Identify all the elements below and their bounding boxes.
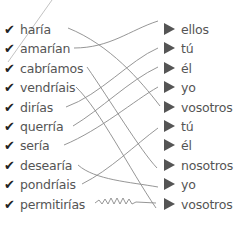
left-item-label: querría bbox=[20, 119, 63, 134]
triangle-right-icon bbox=[164, 198, 175, 210]
left-item[interactable]: ✔sería bbox=[4, 136, 49, 154]
triangle-right-icon bbox=[164, 42, 175, 54]
left-item-label: desearía bbox=[20, 158, 72, 173]
right-item-label: vosotros bbox=[181, 197, 233, 212]
left-item-label: dirías bbox=[20, 100, 53, 115]
check-icon: ✔ bbox=[4, 61, 20, 76]
check-icon: ✔ bbox=[4, 22, 20, 37]
triangle-right-icon bbox=[164, 62, 175, 74]
left-item-label: permitirías bbox=[20, 197, 85, 212]
right-item[interactable]: tú bbox=[164, 39, 193, 57]
triangle-right-icon bbox=[164, 120, 175, 132]
right-item[interactable]: vosotros bbox=[164, 98, 233, 116]
left-item-label: vendríais bbox=[20, 80, 75, 95]
right-item-label: vosotros bbox=[181, 100, 233, 115]
left-item[interactable]: ✔querría bbox=[4, 117, 63, 135]
left-item[interactable]: ✔haría bbox=[4, 20, 51, 38]
check-icon: ✔ bbox=[4, 80, 20, 95]
check-icon: ✔ bbox=[4, 138, 20, 153]
left-item[interactable]: ✔cabríamos bbox=[4, 59, 83, 77]
right-item[interactable]: él bbox=[164, 136, 192, 154]
right-item-label: él bbox=[181, 61, 192, 76]
left-item[interactable]: ✔vendríais bbox=[4, 78, 75, 96]
left-item-label: amarían bbox=[20, 41, 70, 56]
triangle-right-icon bbox=[164, 101, 175, 113]
right-item[interactable]: ellos bbox=[164, 20, 209, 38]
right-item-label: nosotros bbox=[181, 158, 233, 173]
triangle-right-icon bbox=[164, 81, 175, 93]
right-item[interactable]: yo bbox=[164, 78, 196, 96]
left-item[interactable]: ✔amarían bbox=[4, 39, 70, 57]
triangle-right-icon bbox=[164, 178, 175, 190]
right-item-label: tú bbox=[181, 119, 193, 134]
left-item-label: cabríamos bbox=[20, 61, 83, 76]
left-item[interactable]: ✔permitirías bbox=[4, 195, 85, 213]
right-item-label: yo bbox=[181, 177, 196, 192]
right-item[interactable]: vosotros bbox=[164, 195, 233, 213]
right-item[interactable]: él bbox=[164, 59, 192, 77]
left-item-label: pondríais bbox=[20, 177, 76, 192]
triangle-right-icon bbox=[164, 159, 175, 171]
right-item-label: yo bbox=[181, 80, 196, 95]
triangle-right-icon bbox=[164, 139, 175, 151]
check-icon: ✔ bbox=[4, 100, 20, 115]
right-item[interactable]: nosotros bbox=[164, 156, 233, 174]
left-item[interactable]: ✔pondríais bbox=[4, 175, 76, 193]
right-item-label: tú bbox=[181, 41, 193, 56]
right-item[interactable]: yo bbox=[164, 175, 196, 193]
check-icon: ✔ bbox=[4, 197, 20, 212]
right-item[interactable]: tú bbox=[164, 117, 193, 135]
check-icon: ✔ bbox=[4, 41, 20, 56]
check-icon: ✔ bbox=[4, 177, 20, 192]
triangle-right-icon bbox=[164, 23, 175, 35]
left-item[interactable]: ✔desearía bbox=[4, 156, 72, 174]
right-item-label: ellos bbox=[181, 22, 209, 37]
right-item-label: él bbox=[181, 138, 192, 153]
left-item[interactable]: ✔dirías bbox=[4, 98, 53, 116]
check-icon: ✔ bbox=[4, 158, 20, 173]
check-icon: ✔ bbox=[4, 119, 20, 134]
left-item-label: haría bbox=[20, 22, 51, 37]
left-item-label: sería bbox=[20, 138, 49, 153]
